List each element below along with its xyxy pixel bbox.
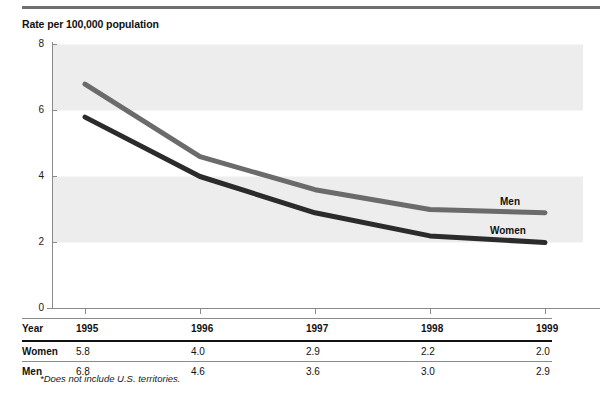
table-rowheader-women: Women bbox=[22, 342, 58, 361]
table-row-year: Year 1995 1996 1997 1998 1999 bbox=[22, 319, 552, 340]
y-axis-label-4: 4 bbox=[26, 170, 44, 181]
table-cell-women-1996: 4.0 bbox=[191, 342, 205, 361]
table-cell-women-1999: 2.0 bbox=[536, 342, 550, 361]
table-cell-men-1997: 3.6 bbox=[306, 362, 320, 381]
table-cell-women-1998: 2.2 bbox=[421, 342, 435, 361]
table-cell-men-1998: 3.0 bbox=[421, 362, 435, 381]
table-cell-year-1999: 1999 bbox=[536, 319, 558, 338]
y-axis-label-6: 6 bbox=[26, 104, 44, 115]
y-axis-label-8: 8 bbox=[26, 38, 44, 49]
table-cell-men-1999: 2.9 bbox=[536, 362, 550, 381]
series-label-women: Women bbox=[490, 225, 526, 236]
y-axis-label-2: 2 bbox=[26, 236, 44, 247]
table-rowheader-year: Year bbox=[22, 319, 43, 338]
band-6-8 bbox=[52, 45, 583, 111]
series-label-men: Men bbox=[500, 196, 520, 207]
table-cell-men-1996: 4.6 bbox=[191, 362, 205, 381]
y-axis-label-0: 0 bbox=[26, 302, 44, 313]
table-row-women: Women 5.8 4.0 2.9 2.2 2.0 bbox=[22, 342, 552, 363]
footnote: *Does not include U.S. territories. bbox=[40, 373, 180, 384]
table-cell-women-1995: 5.8 bbox=[76, 342, 90, 361]
table-cell-year-1995: 1995 bbox=[76, 319, 98, 338]
table-rowheader-men: Men bbox=[22, 362, 42, 381]
table-cell-year-1998: 1998 bbox=[421, 319, 443, 338]
table-cell-year-1997: 1997 bbox=[306, 319, 328, 338]
table-cell-year-1996: 1996 bbox=[191, 319, 213, 338]
table-cell-women-1997: 2.9 bbox=[306, 342, 320, 361]
